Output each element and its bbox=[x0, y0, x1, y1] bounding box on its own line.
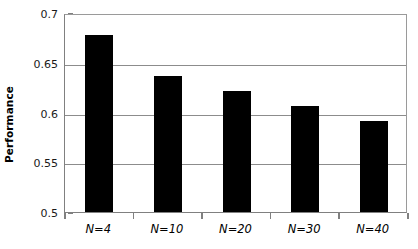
x-axis-tick-mark bbox=[201, 213, 203, 219]
plot-area bbox=[64, 14, 407, 213]
y-axis-tick-label: 0.6 bbox=[12, 107, 58, 120]
x-axis-tick-mark bbox=[338, 213, 340, 219]
bar-series bbox=[65, 15, 406, 212]
y-axis-tick-label: 0.5 bbox=[12, 207, 58, 220]
bar-chart: Performance 0.50.550.60.650.7 N=4N=10N=2… bbox=[0, 0, 418, 249]
bar bbox=[291, 106, 319, 212]
y-axis-tick-label: 0.7 bbox=[12, 8, 58, 21]
x-axis-tick-mark bbox=[133, 213, 135, 219]
bar bbox=[360, 121, 388, 212]
x-axis-tick-mark bbox=[407, 213, 409, 219]
y-axis-tick-label: 0.55 bbox=[12, 157, 58, 170]
x-axis-tick-mark bbox=[270, 213, 272, 219]
x-axis-tick-label: N=40 bbox=[333, 222, 413, 236]
bar bbox=[85, 35, 113, 212]
bar bbox=[154, 76, 182, 212]
bar bbox=[223, 91, 251, 212]
y-axis-tick-group: 0.50.550.60.650.7 bbox=[8, 0, 58, 249]
x-axis-tick-mark bbox=[64, 213, 66, 219]
y-axis-tick-label: 0.65 bbox=[12, 57, 58, 70]
